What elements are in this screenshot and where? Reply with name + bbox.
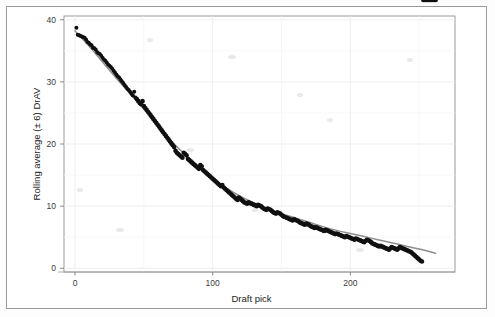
scan-speck-7 (407, 58, 413, 62)
y-axis-title: Rolling average (± 6) DrAV (31, 87, 42, 200)
y-tick-label: 10 (47, 201, 57, 211)
x-tick-label: 0 (73, 278, 78, 288)
scan-speck-5 (116, 228, 124, 232)
data-point (420, 259, 425, 264)
scan-speck-4 (252, 208, 258, 212)
y-tick-label: 0 (51, 263, 56, 273)
chart-plot: 0100200010203040Draft pickRolling averag… (0, 0, 495, 317)
x-axis-title: Draft pick (231, 293, 271, 304)
x-tick-label: 200 (343, 278, 357, 288)
x-tick-label: 100 (206, 278, 220, 288)
scan-speck-2 (297, 93, 303, 97)
scan-speck-9 (356, 248, 364, 252)
data-point (132, 90, 136, 94)
y-tick-label: 30 (47, 77, 57, 87)
y-tick-label: 40 (47, 15, 57, 25)
data-point (140, 99, 145, 104)
y-tick-label: 20 (47, 139, 57, 149)
scan-speck-0 (147, 38, 153, 42)
data-point (180, 155, 185, 160)
scan-speck-6 (327, 118, 333, 122)
data-point (74, 26, 78, 30)
scan-speck-8 (77, 188, 83, 192)
figure-container: 0100200010203040Draft pickRolling averag… (0, 0, 495, 317)
scan-speck-1 (228, 55, 236, 59)
scan-speck-3 (186, 148, 194, 152)
